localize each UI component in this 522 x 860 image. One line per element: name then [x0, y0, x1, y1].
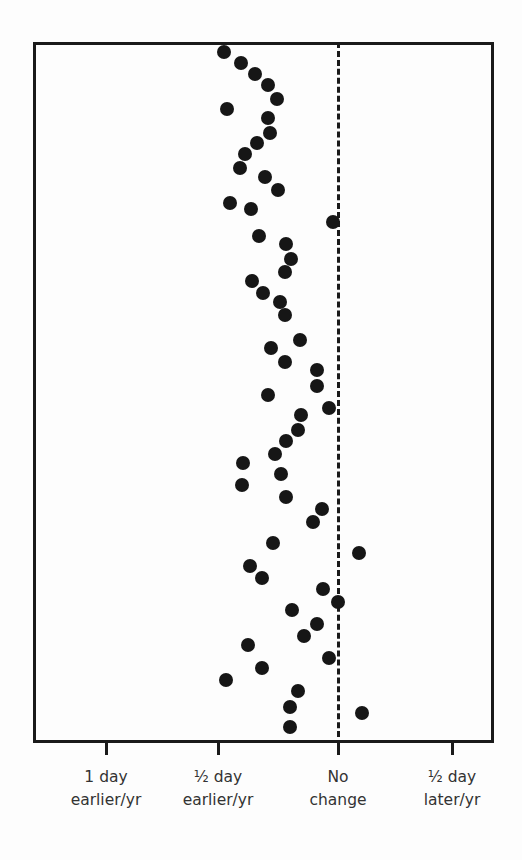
data-point: [310, 363, 324, 377]
x-tick-label-line2: change: [278, 789, 398, 812]
data-point: [261, 388, 275, 402]
x-tick-label-line2: earlier/yr: [46, 789, 166, 812]
data-point: [273, 295, 287, 309]
data-point: [310, 379, 324, 393]
data-point: [252, 229, 266, 243]
data-point: [243, 559, 257, 573]
data-point: [306, 515, 320, 529]
data-point: [284, 252, 298, 266]
data-point: [326, 215, 340, 229]
no-change-reference-line: [337, 42, 340, 755]
data-point: [315, 502, 329, 516]
x-tick-label-line1: ½ day: [392, 766, 512, 789]
x-axis-tick: [337, 740, 340, 755]
x-tick-label-line1: 1 day: [46, 766, 166, 789]
data-point: [223, 196, 237, 210]
data-point: [279, 434, 293, 448]
data-point: [244, 202, 258, 216]
data-point: [255, 661, 269, 675]
data-point: [278, 308, 292, 322]
data-point: [250, 136, 264, 150]
data-point: [322, 651, 336, 665]
data-point: [355, 706, 369, 720]
data-point: [258, 170, 272, 184]
data-point: [293, 333, 307, 347]
data-point: [219, 673, 233, 687]
data-point: [248, 67, 262, 81]
data-point: [263, 126, 277, 140]
data-point: [220, 102, 234, 116]
x-tick-label: ½ daylater/yr: [392, 766, 512, 812]
data-point: [316, 582, 330, 596]
data-point: [217, 45, 231, 59]
data-point: [283, 700, 297, 714]
x-tick-label-line2: later/yr: [392, 789, 512, 812]
data-point: [279, 490, 293, 504]
data-point: [255, 571, 269, 585]
x-tick-label: 1 dayearlier/yr: [46, 766, 166, 812]
data-point: [233, 161, 247, 175]
data-point: [261, 111, 275, 125]
data-point: [310, 617, 324, 631]
data-point: [256, 286, 270, 300]
data-point: [236, 456, 250, 470]
data-point: [278, 355, 292, 369]
x-tick-label-line1: No: [278, 766, 398, 789]
x-tick-label-line1: ½ day: [158, 766, 278, 789]
data-point: [285, 603, 299, 617]
x-axis-tick: [217, 740, 220, 755]
x-tick-label: Nochange: [278, 766, 398, 812]
data-point: [268, 447, 282, 461]
data-point: [322, 401, 336, 415]
data-point: [261, 78, 275, 92]
data-point: [278, 265, 292, 279]
data-point: [279, 237, 293, 251]
data-point: [283, 720, 297, 734]
data-point: [291, 684, 305, 698]
data-point: [270, 92, 284, 106]
data-point: [291, 423, 305, 437]
data-point: [297, 629, 311, 643]
data-point: [235, 478, 249, 492]
data-point: [245, 274, 259, 288]
data-point: [266, 536, 280, 550]
x-tick-label-line2: earlier/yr: [158, 789, 278, 812]
data-point: [271, 183, 285, 197]
x-tick-label: ½ dayearlier/yr: [158, 766, 278, 812]
x-axis-tick: [105, 740, 108, 755]
data-point: [294, 408, 308, 422]
x-axis-tick: [451, 740, 454, 755]
data-point: [241, 638, 255, 652]
data-point: [352, 546, 366, 560]
data-point: [274, 467, 288, 481]
data-point: [238, 147, 252, 161]
data-point: [234, 56, 248, 70]
data-point: [264, 341, 278, 355]
data-point: [331, 595, 345, 609]
